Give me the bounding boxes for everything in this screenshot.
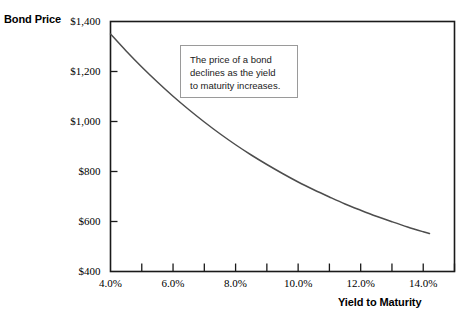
- annotation-line-3: to maturity increases.: [190, 79, 294, 92]
- bond-price-yield-chart: Bond Price Yield to Maturity $400$600$80…: [0, 0, 468, 321]
- annotation-text: The price of a bond declines as the yiel…: [190, 53, 294, 92]
- y-tick-marks: [111, 72, 118, 222]
- annotation-line-2: declines as the yield: [190, 66, 294, 79]
- annotation-line-1: The price of a bond: [190, 53, 294, 66]
- x-tick-marks: [142, 264, 455, 272]
- annotation-box: The price of a bond declines as the yiel…: [180, 45, 298, 98]
